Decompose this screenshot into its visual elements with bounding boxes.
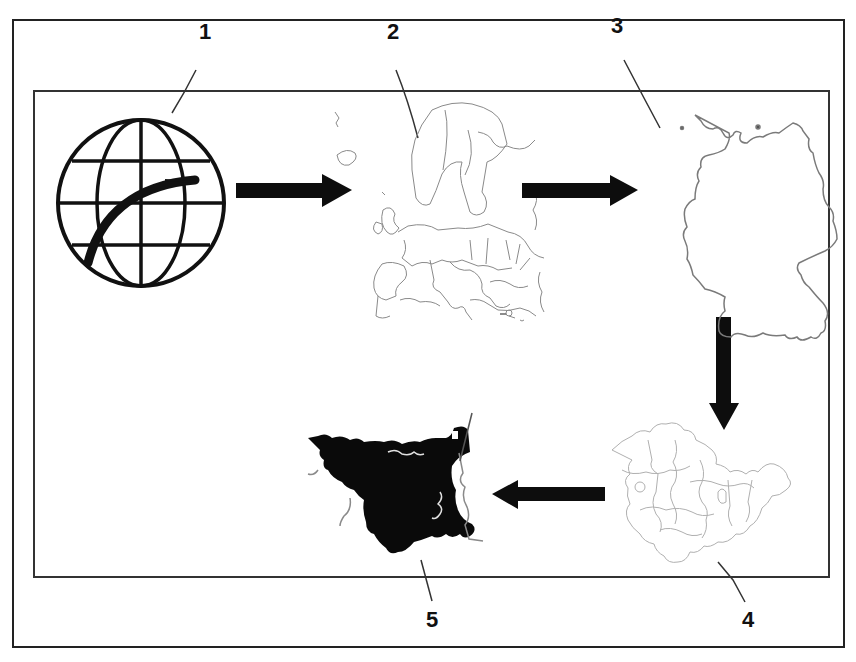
leader-line-1 [172, 70, 196, 113]
node-label-5: 5 [426, 609, 438, 631]
leader-line-2 [396, 70, 418, 138]
district-map [612, 423, 791, 563]
leader-line-5 [421, 560, 432, 601]
leader-line-3 [624, 60, 660, 128]
arrow-right-icon-1 [236, 174, 352, 207]
node-label-4: 4 [742, 609, 754, 631]
arrow-right-icon-2 [522, 175, 638, 206]
arrow-left-icon [492, 480, 605, 509]
node-label-2: 2 [387, 21, 399, 43]
europe-map [335, 103, 544, 321]
leader-line-4 [718, 562, 745, 602]
node-label-1: 1 [199, 21, 211, 43]
local-region-filled-map [308, 413, 483, 553]
globe-icon [58, 120, 224, 286]
germany-map [681, 115, 838, 340]
diagram-canvas [0, 0, 856, 662]
node-label-3: 3 [611, 15, 623, 37]
